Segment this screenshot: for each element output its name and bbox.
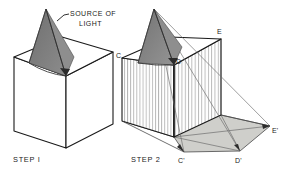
step1-caption: STEP I bbox=[13, 155, 40, 164]
point-label-d-prime: D' bbox=[235, 157, 242, 164]
point-label-d: D bbox=[176, 58, 181, 65]
point-label-c-prime: C' bbox=[178, 157, 185, 164]
shadow-construction-figure: SOURCE OF LIGHT STEP I bbox=[0, 0, 287, 176]
step2-caption: STEP 2 bbox=[131, 155, 161, 164]
point-label-e-prime: E' bbox=[272, 127, 278, 134]
source-of-light-label-line2: LIGHT bbox=[79, 20, 102, 27]
source-of-light-label-line1: SOURCE OF bbox=[70, 10, 116, 17]
point-label-e: E bbox=[217, 28, 222, 35]
diagram-canvas: SOURCE OF LIGHT STEP I bbox=[0, 0, 287, 176]
point-label-c: C bbox=[116, 52, 121, 59]
